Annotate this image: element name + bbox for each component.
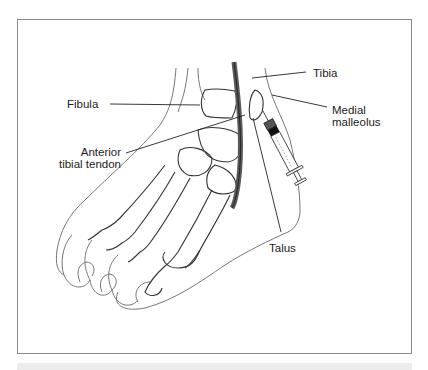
label-anterior-tibial-tendon-1: Anterior: [50, 146, 121, 158]
anterior-tibial-tendon-leader: [126, 115, 245, 153]
label-tibia: Tibia: [313, 67, 338, 79]
fibula-leader: [110, 104, 200, 105]
tibia-leader: [252, 72, 306, 78]
label-fibula: Fibula: [67, 98, 98, 110]
leader-lines: [110, 72, 327, 232]
medial-malleolus-leader: [272, 95, 327, 107]
label-talus: Talus: [269, 242, 296, 254]
label-medial-malleolus-2: malleolus: [332, 116, 381, 128]
foot-illustration: [0, 0, 428, 370]
label-anterior-tibial-tendon-2: tibial tendon: [40, 158, 121, 170]
label-medial-malleolus-1: Medial: [332, 104, 366, 116]
